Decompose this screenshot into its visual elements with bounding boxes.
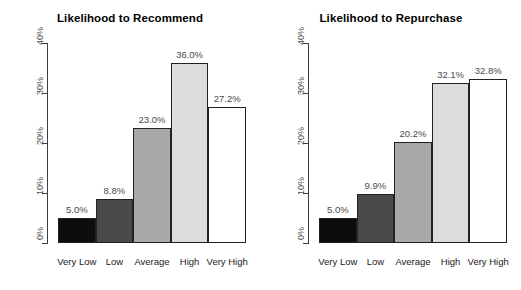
bar[interactable] bbox=[394, 142, 432, 243]
y-axis-tick-label: 40% bbox=[296, 41, 306, 81]
bar[interactable] bbox=[171, 63, 209, 243]
bar[interactable] bbox=[96, 199, 134, 243]
y-axis-tick-label: 30% bbox=[296, 91, 306, 131]
chart-panel-recommend: Likelihood to Recommend 0%10%20%30%40%5.… bbox=[0, 0, 260, 290]
bar[interactable] bbox=[432, 83, 470, 244]
x-axis-category-label: Very High bbox=[195, 256, 259, 267]
y-axis-tick-label: 30% bbox=[35, 91, 45, 131]
y-axis-tick-label: 10% bbox=[35, 191, 45, 231]
plot-area: 0%10%20%30%40%5.0%Very Low9.9%Low20.2%Av… bbox=[261, 0, 521, 290]
bar-value-label: 32.8% bbox=[461, 65, 515, 76]
bar[interactable] bbox=[208, 107, 246, 243]
y-axis-tick-label: 10% bbox=[296, 191, 306, 231]
bar[interactable] bbox=[319, 218, 357, 243]
x-axis-category-label: Very High bbox=[456, 256, 520, 267]
bar[interactable] bbox=[133, 128, 171, 243]
bar[interactable] bbox=[58, 218, 96, 243]
chart-panel-repurchase: Likelihood to Repurchase 0%10%20%30%40%5… bbox=[261, 0, 521, 290]
y-axis-tick-label: 40% bbox=[35, 41, 45, 81]
y-axis-tick-label: 0% bbox=[35, 241, 45, 281]
y-axis-tick-label: 0% bbox=[296, 241, 306, 281]
plot-area: 0%10%20%30%40%5.0%Very Low8.8%Low23.0%Av… bbox=[0, 0, 260, 290]
bar[interactable] bbox=[469, 79, 507, 243]
bar-value-label: 27.2% bbox=[200, 93, 254, 104]
bar-value-label: 36.0% bbox=[163, 49, 217, 60]
bar[interactable] bbox=[357, 194, 395, 244]
y-axis-tick-label: 20% bbox=[35, 141, 45, 181]
y-axis-tick-label: 20% bbox=[296, 141, 306, 181]
